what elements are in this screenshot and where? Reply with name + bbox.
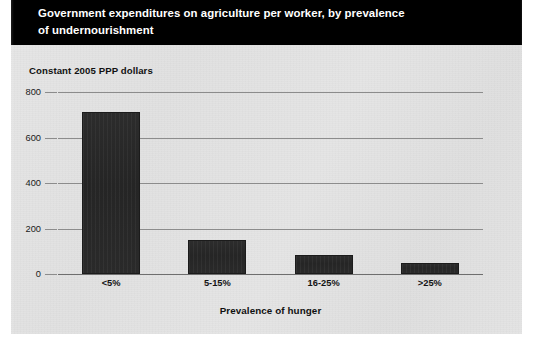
y-axis-tick xyxy=(45,183,57,184)
y-axis-tick-label: 0 xyxy=(36,269,41,279)
x-axis-title: Prevalence of hunger xyxy=(58,305,483,316)
gridline xyxy=(58,274,483,275)
y-axis-tick-label: 200 xyxy=(25,224,41,234)
bar[interactable] xyxy=(401,263,459,274)
chart-subtitle-units: Constant 2005 PPP dollars xyxy=(29,65,153,76)
bar-slot: <5% xyxy=(58,92,164,274)
x-axis-tick-label: 16-25% xyxy=(308,278,340,288)
y-axis-tick xyxy=(45,138,57,139)
y-axis-tick-label: 600 xyxy=(25,133,41,143)
bars-group: <5%5-15%16-25%>25% xyxy=(58,92,483,274)
plot-area: 0200400600800 <5%5-15%16-25%>25% xyxy=(58,92,483,274)
bar[interactable] xyxy=(188,240,246,274)
x-axis-tick-label: 5-15% xyxy=(204,278,231,288)
bar[interactable] xyxy=(295,255,353,274)
bar[interactable] xyxy=(82,112,140,274)
chart-title-band: Government expenditures on agriculture p… xyxy=(11,0,522,45)
y-axis-tick-label: 800 xyxy=(25,87,41,97)
bar-slot: 16-25% xyxy=(271,92,377,274)
bar-slot: 5-15% xyxy=(164,92,270,274)
bar-slot: >25% xyxy=(377,92,483,274)
x-axis-tick-label: >25% xyxy=(418,278,442,288)
x-axis-tick-label: <5% xyxy=(102,278,121,288)
y-axis-tick xyxy=(45,92,57,93)
y-axis-tick xyxy=(45,229,57,230)
figure-root: Government expenditures on agriculture p… xyxy=(0,0,534,345)
y-axis-tick xyxy=(45,274,57,275)
chart-title: Government expenditures on agriculture p… xyxy=(38,5,504,38)
y-axis-tick-label: 400 xyxy=(25,178,41,188)
